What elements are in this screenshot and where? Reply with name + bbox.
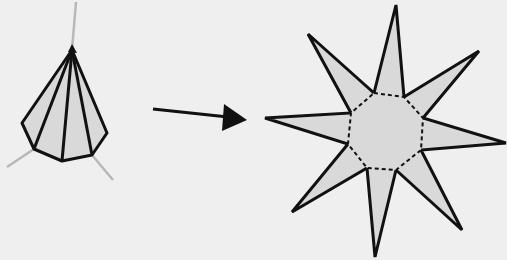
pyramid-axis-left [7,149,34,167]
pyramid-axis-right [92,155,113,180]
pyramid-apex [68,44,77,53]
pyramid-figure [7,2,113,180]
arrow [153,104,247,131]
diagram-svg [0,0,507,260]
arrow-shaft [153,109,228,117]
arrow-head-icon [222,104,247,131]
star-net [265,5,506,257]
pyramid-axis-top [72,2,76,50]
diagram-canvas [0,0,507,260]
